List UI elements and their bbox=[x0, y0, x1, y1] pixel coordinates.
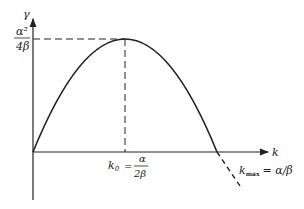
diagram-canvas: γ α² 4β k k0 = α 2β kmax= α/β bbox=[0, 0, 304, 209]
peak-label-numerator: α² bbox=[16, 25, 28, 38]
kmax-subscript: max bbox=[246, 170, 260, 177]
k0-denominator: 2β bbox=[133, 168, 146, 179]
k0-subscript: 0 bbox=[115, 165, 120, 173]
curve-dashed-extension bbox=[217, 152, 240, 186]
peak-label-denominator: 4β bbox=[15, 40, 29, 53]
x-axis-label: k bbox=[272, 146, 279, 159]
k0-label: k0 bbox=[108, 159, 120, 173]
kmax-value: = α/β bbox=[263, 164, 293, 177]
k0-numerator: α bbox=[139, 153, 146, 164]
k0-equals: = bbox=[124, 161, 132, 172]
kmax-label: kmax= α/β bbox=[239, 164, 293, 177]
y-axis-label: γ bbox=[23, 8, 30, 21]
